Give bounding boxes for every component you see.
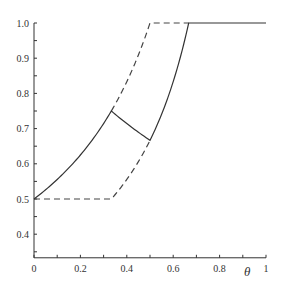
y-tick-label: 0.7 <box>17 123 30 134</box>
x-tick-label: 0 <box>32 263 37 274</box>
x-tick-label: 0.4 <box>121 263 134 274</box>
solid-curve <box>34 23 266 199</box>
x-tick-label: 1 <box>264 263 269 274</box>
y-tick-label: 0.5 <box>17 194 30 205</box>
y-tick-label: 1.0 <box>17 18 30 29</box>
x-tick-label: 0.6 <box>167 263 180 274</box>
x-tick-label: 0.2 <box>74 263 87 274</box>
line-chart: 00.20.40.60.810.40.50.60.70.80.91.0 θ <box>0 0 283 289</box>
x-tick-label: 0.8 <box>213 263 226 274</box>
plot-area <box>34 23 266 199</box>
y-tick-label: 0.6 <box>17 158 30 169</box>
x-axis-label: θ <box>244 264 251 279</box>
lower-dashed-curve <box>34 140 150 199</box>
y-tick-label: 0.4 <box>17 229 30 240</box>
y-tick-label: 0.8 <box>17 88 30 99</box>
y-tick-label: 0.9 <box>17 53 30 64</box>
tick-labels: 00.20.40.60.810.40.50.60.70.80.91.0 <box>17 18 269 274</box>
